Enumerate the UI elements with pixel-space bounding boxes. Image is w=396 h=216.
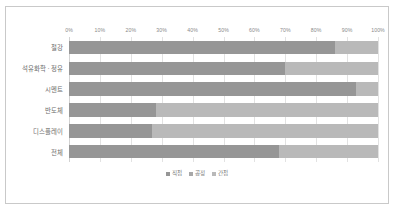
gridline <box>131 37 132 162</box>
gridline <box>378 37 379 162</box>
gridline <box>100 37 101 162</box>
bar-segment <box>69 145 279 159</box>
x-axis-tick-label: 30% <box>156 25 167 36</box>
legend-label: 직접 <box>172 170 182 177</box>
bar-segment <box>69 82 356 96</box>
legend-item[interactable]: 직접 <box>166 170 182 177</box>
gridline <box>224 37 225 162</box>
legend-swatch-icon <box>166 172 170 176</box>
bar-segment <box>285 62 378 76</box>
legend-swatch-icon <box>212 172 216 176</box>
bar-segment <box>152 124 378 138</box>
bar-segment <box>156 103 378 117</box>
bar-segment <box>335 41 378 55</box>
bar-segment <box>69 62 285 76</box>
gridline <box>316 37 317 162</box>
bar-segment <box>69 41 335 55</box>
gridline <box>69 37 70 162</box>
bar-segment <box>279 145 378 159</box>
bar-row <box>69 124 378 138</box>
legend-item[interactable]: 간접 <box>212 170 228 177</box>
bar-row <box>69 82 378 96</box>
gridline <box>347 37 348 162</box>
x-axis-tick-label: 100% <box>371 25 385 36</box>
y-axis-category-label: 반도체 <box>45 105 63 114</box>
x-axis-tick-label: 60% <box>249 25 260 36</box>
legend-label: 공정 <box>195 170 205 177</box>
gridline <box>285 37 286 162</box>
x-axis-tick-label: 10% <box>95 25 106 36</box>
bar-segment <box>69 124 152 138</box>
legend-item[interactable]: 공정 <box>189 170 205 177</box>
legend-swatch-icon <box>189 172 193 176</box>
chart-legend: 직접공정간접 <box>6 170 388 177</box>
gridline <box>193 37 194 162</box>
y-axis-category-label: 석유화학 · 정유 <box>22 64 63 73</box>
x-axis-tick-label: 70% <box>280 25 291 36</box>
y-axis-category-label: 시멘트 <box>45 85 63 94</box>
bar-row <box>69 103 378 117</box>
gridline <box>254 37 255 162</box>
y-axis-category-label: 디스플레이 <box>33 126 63 135</box>
legend-label: 간접 <box>218 170 228 177</box>
gridline <box>162 37 163 162</box>
x-axis-tick-label: 50% <box>218 25 229 36</box>
y-axis-category-label: 철강 <box>51 43 63 52</box>
bar-row <box>69 145 378 159</box>
x-axis-tick-label: 80% <box>311 25 322 36</box>
y-axis-category-labels: 철강석유화학 · 정유시멘트반도체디스플레이전체 <box>6 37 66 162</box>
chart-frame: 0%10%20%30%40%50%60%70%80%90%100% 철강석유화학… <box>5 6 389 204</box>
bar-segment <box>356 82 378 96</box>
bar-row <box>69 62 378 76</box>
x-axis-tick-label: 40% <box>187 25 198 36</box>
x-axis-tick-label: 90% <box>342 25 353 36</box>
bar-segment <box>69 103 156 117</box>
y-axis-category-label: 전체 <box>51 147 63 156</box>
x-axis-tick-label: 0% <box>65 25 73 36</box>
chart-screenshot: 0%10%20%30%40%50%60%70%80%90%100% 철강석유화학… <box>0 0 396 216</box>
x-axis-tick-label: 20% <box>125 25 136 36</box>
bar-row <box>69 41 378 55</box>
plot-area <box>69 37 378 162</box>
x-axis-tick-labels: 0%10%20%30%40%50%60%70%80%90%100% <box>69 25 378 36</box>
